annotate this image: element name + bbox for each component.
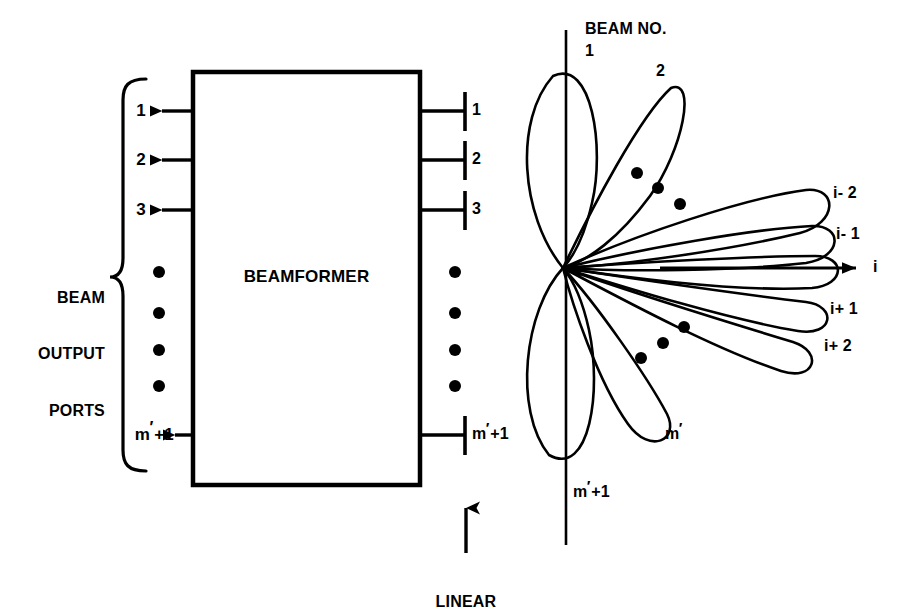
output-ports-ellipsis bbox=[153, 266, 165, 392]
output-port-label-m-plus-1-base: m bbox=[135, 425, 150, 444]
beam-lobes bbox=[527, 74, 838, 459]
prime-mark: ′ bbox=[587, 477, 591, 494]
array-element-label-m-plus-1-base: m bbox=[472, 425, 486, 442]
beam-label-1: 1 bbox=[585, 42, 594, 61]
beam-no-title: BEAM NO. bbox=[585, 20, 667, 39]
beam-label-2: 2 bbox=[656, 62, 665, 81]
prime-mark: ′ bbox=[486, 419, 490, 436]
beam-label-i-minus-1: i- 1 bbox=[836, 225, 860, 244]
array-element-label-1: 1 bbox=[472, 101, 481, 120]
beam-lobe-m-prime-plus-1 bbox=[527, 268, 594, 459]
beam-lobe-i-plus-1 bbox=[563, 268, 827, 332]
beam-ellipsis-upper bbox=[631, 167, 686, 210]
beam-output-ports-label-line1: BEAM bbox=[0, 289, 105, 308]
beam-output-ports-label-line2: OUTPUT bbox=[0, 345, 105, 364]
beamformer-label: BEAMFORMER bbox=[193, 267, 420, 287]
array-elements-ellipsis bbox=[449, 266, 461, 392]
beam-label-i: i bbox=[873, 258, 878, 277]
array-element-label-2: 2 bbox=[472, 150, 481, 169]
beam-label-m-prime-base: m bbox=[665, 425, 679, 442]
prime-mark: ′ bbox=[149, 418, 153, 436]
beam-output-ports-label-line3: PORTS bbox=[0, 402, 105, 421]
beam-label-m-prime-plus-1-base: m bbox=[573, 483, 587, 500]
output-port-label-m-plus-1-suffix: +1 bbox=[154, 425, 174, 444]
output-port-label-2: 2 bbox=[118, 150, 146, 170]
beam-label-i-plus-1: i+ 1 bbox=[830, 300, 858, 319]
beam-label-m-prime: m′ bbox=[665, 425, 683, 444]
beam-lobe-1 bbox=[527, 74, 597, 268]
beam-lobe-i-minus-1 bbox=[563, 226, 835, 270]
beam-lobe-i bbox=[563, 256, 838, 289]
figure-root: BEAMFORMER BEAM OUTPUT PORTS 1 2 3 m′+1 … bbox=[0, 0, 910, 609]
beam-ellipsis-lower bbox=[635, 321, 690, 364]
beam-label-i-minus-2: i- 2 bbox=[833, 184, 857, 203]
array-element-label-3: 3 bbox=[472, 200, 481, 219]
output-port-label-1: 1 bbox=[118, 101, 146, 121]
figure-drawing bbox=[0, 0, 910, 609]
linear-array-caption-line1: LINEAR bbox=[396, 593, 536, 609]
beam-output-ports-label: BEAM OUTPUT PORTS bbox=[0, 251, 105, 459]
beam-label-m-prime-plus-1: m′+1 bbox=[573, 483, 610, 502]
output-port-arrows bbox=[162, 111, 193, 435]
output-port-label-3: 3 bbox=[118, 200, 146, 220]
linear-array-caption: LINEAR ARRAY bbox=[396, 555, 536, 609]
output-port-label-m-plus-1: m′+1 bbox=[104, 425, 174, 445]
array-element-label-m-plus-1: m′+1 bbox=[472, 425, 509, 444]
array-element-label-m-plus-1-suffix: +1 bbox=[490, 425, 509, 442]
beam-label-m-prime-plus-1-suffix: +1 bbox=[591, 483, 610, 500]
beam-label-i-plus-2: i+ 2 bbox=[824, 337, 852, 356]
beam-output-ports-brace bbox=[110, 79, 146, 471]
prime-mark: ′ bbox=[679, 419, 683, 436]
